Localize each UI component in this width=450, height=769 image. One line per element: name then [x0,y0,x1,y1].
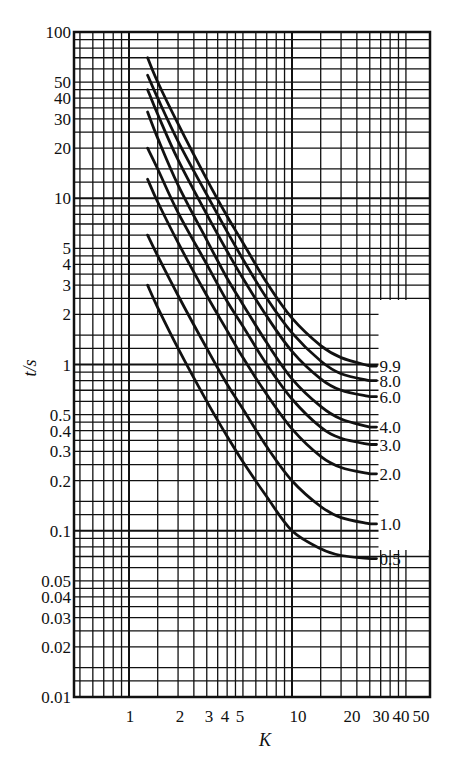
x-tick-label: 1 [126,707,135,726]
curve-label-6.0: 6.0 [380,388,401,407]
x-tick-label: 2 [176,707,185,726]
x-tick-label: 30 [373,707,390,726]
y-tick-label: 0.01 [41,688,71,707]
x-tick-label: 4 [221,707,230,726]
y-tick-label: 30 [54,110,71,129]
curve-label-2.0: 2.0 [380,465,401,484]
y-tick-label: 0.4 [50,422,72,441]
curve-4.0 [148,112,377,427]
curve-label-3.0: 3.0 [380,436,401,455]
y-axis-label: t/s [20,359,40,376]
y-tick-label: 0.02 [41,638,71,657]
x-tick-label: 50 [413,707,430,726]
curve-6.0 [148,90,377,397]
y-tick-label: 0.3 [50,442,71,461]
y-tick-label: 1 [63,356,72,375]
y-tick-label: 100 [46,23,72,42]
x-axis-label: K [258,730,272,750]
curve-9.9 [148,58,377,366]
x-tick-label: 3 [205,707,214,726]
y-tick-label: 0.04 [41,588,71,607]
grid-lines [74,32,430,697]
x-axis-tick-labels: 123451020304050 [126,707,430,726]
y-axis-tick-labels: 1005040302010543210.50.40.30.20.10.050.0… [41,23,71,707]
x-tick-label: 10 [290,707,307,726]
y-tick-label: 10 [54,189,71,208]
y-tick-label: 2 [63,305,72,324]
curve-label-1.0: 1.0 [380,515,401,534]
chart: 1005040302010543210.50.40.30.20.10.050.0… [0,0,450,769]
data-curves [148,58,377,559]
x-tick-label: 20 [344,707,361,726]
y-tick-label: 0.03 [41,609,71,628]
curve-labels: 9.98.06.04.03.02.01.00.5 [379,300,429,569]
y-tick-label: 0.2 [50,472,71,491]
y-tick-label: 0.1 [50,522,71,541]
x-tick-label: 40 [393,707,410,726]
curve-label-0.5: 0.5 [380,550,401,569]
curve-label-4.0: 4.0 [380,418,401,437]
y-tick-label: 3 [63,276,72,295]
y-tick-label: 40 [54,89,71,108]
y-tick-label: 4 [63,255,72,274]
x-tick-label: 5 [236,707,245,726]
y-tick-label: 20 [54,139,71,158]
